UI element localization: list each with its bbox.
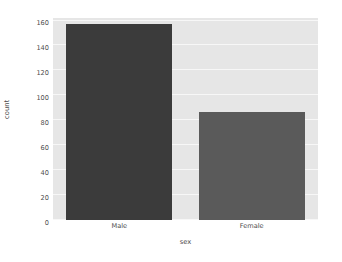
- bar-female[interactable]: [199, 112, 305, 220]
- figure-canvas: 020406080100120140160 MaleFemale sex cou…: [0, 0, 342, 262]
- bar-male[interactable]: [66, 24, 172, 220]
- y-axis-label: count: [4, 100, 11, 119]
- y-axis-tick-labels: 020406080100120140160: [0, 18, 49, 220]
- x-tick-label: Male: [111, 223, 127, 230]
- plot-area: [53, 18, 318, 220]
- gridline: [53, 20, 318, 21]
- x-tick-label: Female: [240, 223, 264, 230]
- x-axis-label: sex: [53, 239, 318, 246]
- x-axis-tick-labels: MaleFemale: [53, 223, 318, 237]
